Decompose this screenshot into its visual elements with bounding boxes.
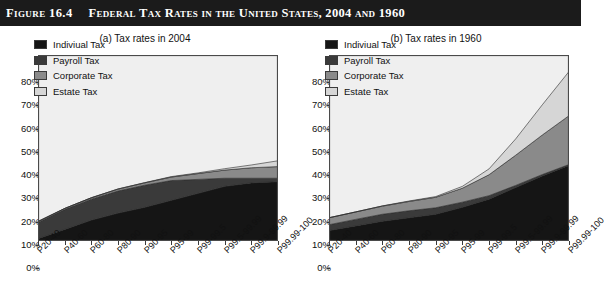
chart-panel-b: (b) Tax rates in 1960 0%10%20%30%40%50%6… xyxy=(291,28,581,306)
y-tick-label: 60% xyxy=(297,124,331,133)
y-tick-label: 70% xyxy=(6,100,40,109)
legend-swatch-icon xyxy=(34,71,47,80)
x-tick-mark xyxy=(462,241,463,245)
legend-item-label: Payroll Tax xyxy=(344,55,390,66)
legend-item-label: Estate Tax xyxy=(344,86,388,97)
y-tick-label: 70% xyxy=(297,100,331,109)
x-tick-mark xyxy=(516,241,517,245)
legend-item: Corporate Tax xyxy=(325,69,404,82)
legend-item-label: Payroll Tax xyxy=(53,55,99,66)
legend-item-label: Corporate Tax xyxy=(344,70,404,81)
legend-item-label: Estate Tax xyxy=(53,86,97,97)
legend-item: Estate Tax xyxy=(325,85,404,98)
legend-item: Corporate Tax xyxy=(34,69,113,82)
figure-header: Figure 16.4 Federal Tax Rates in the Uni… xyxy=(0,0,581,26)
x-tick-mark xyxy=(198,241,199,245)
x-tick-mark xyxy=(409,241,410,245)
legend-swatch-icon xyxy=(34,87,47,96)
x-tick-mark xyxy=(38,241,39,245)
x-tick-mark xyxy=(118,241,119,245)
y-tick-label: 50% xyxy=(297,147,331,156)
y-tick-label: 20% xyxy=(6,217,40,226)
y-tick-label: 40% xyxy=(6,170,40,179)
legend-item-label: Indiviual Tax xyxy=(344,39,396,50)
panel-a-x-axis-labels: P20-40P40-60P60-80P80-90P90-95P95-99P99-… xyxy=(0,243,290,306)
legend-swatch-icon xyxy=(325,56,338,65)
figure-title: Federal Tax Rates in the United States, … xyxy=(89,6,405,21)
x-tick-mark xyxy=(436,241,437,245)
legend-swatch-icon xyxy=(34,40,47,49)
x-tick-mark xyxy=(251,241,252,245)
legend-item-label: Corporate Tax xyxy=(53,70,113,81)
y-tick-label: 20% xyxy=(297,217,331,226)
y-tick-label: 40% xyxy=(297,170,331,179)
y-tick-label: 30% xyxy=(6,193,40,202)
figure-number: Figure 16.4 xyxy=(6,6,73,21)
x-tick-mark xyxy=(225,241,226,245)
legend-item: Payroll Tax xyxy=(325,54,404,67)
y-tick-label: 60% xyxy=(6,124,40,133)
y-tick-label: 30% xyxy=(297,193,331,202)
x-tick-mark xyxy=(91,241,92,245)
legend-item: Estate Tax xyxy=(34,85,113,98)
legend-item: Payroll Tax xyxy=(34,54,113,67)
x-tick-mark xyxy=(542,241,543,245)
x-tick-mark xyxy=(329,241,330,245)
legend-swatch-icon xyxy=(34,56,47,65)
x-tick-mark xyxy=(489,241,490,245)
legend-item: Indiviual Tax xyxy=(325,38,404,51)
x-tick-mark xyxy=(356,241,357,245)
y-tick-label: 50% xyxy=(6,147,40,156)
x-tick-mark xyxy=(382,241,383,245)
legend-item-label: Indiviual Tax xyxy=(53,39,105,50)
legend-swatch-icon xyxy=(325,87,338,96)
x-tick-mark xyxy=(278,241,279,245)
legend-item: Indiviual Tax xyxy=(34,38,113,51)
x-tick-mark xyxy=(171,241,172,245)
panel-b-x-axis-labels: P20-40P40-60P60-80P80-90P90-95P95-99P99-… xyxy=(291,243,581,306)
legend-swatch-icon xyxy=(325,71,338,80)
chart-panel-a: (a) Tax rates in 2004 0%10%20%30%40%50%6… xyxy=(0,28,290,306)
x-tick-mark xyxy=(145,241,146,245)
legend-swatch-icon xyxy=(325,40,338,49)
panel-a-legend: Indiviual TaxPayroll TaxCorporate TaxEst… xyxy=(34,38,113,100)
x-tick-mark xyxy=(569,241,570,245)
x-tick-mark xyxy=(65,241,66,245)
panel-b-legend: Indiviual TaxPayroll TaxCorporate TaxEst… xyxy=(325,38,404,100)
